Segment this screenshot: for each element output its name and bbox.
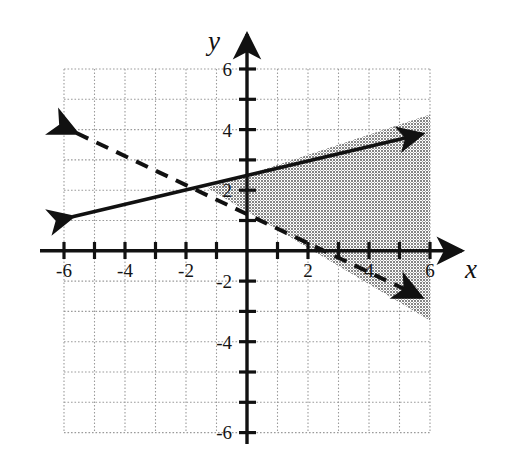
y-tick-label: -2: [216, 271, 232, 292]
y-tick-label: 6: [223, 59, 233, 80]
y-axis-label: y: [205, 26, 220, 56]
x-axis-label: x: [464, 254, 477, 284]
x-tick-label: -6: [56, 260, 72, 281]
y-tick-label: -4: [216, 332, 232, 353]
y-tick-label: 2: [223, 180, 233, 201]
x-tick-label: 6: [425, 260, 435, 281]
x-tick-label: -2: [178, 260, 194, 281]
y-tick-label: 4: [223, 120, 233, 141]
x-tick-label: -4: [117, 260, 133, 281]
graph-figure: -6 -4 -2 2 4 6 6 4 2 -2 -4 -6 x y: [0, 0, 510, 468]
y-tick-label: -6: [216, 422, 232, 443]
x-tick-label: 4: [364, 260, 374, 281]
x-tick-label: 2: [303, 260, 313, 281]
coordinate-plane: -6 -4 -2 2 4 6 6 4 2 -2 -4 -6 x y: [0, 0, 510, 468]
